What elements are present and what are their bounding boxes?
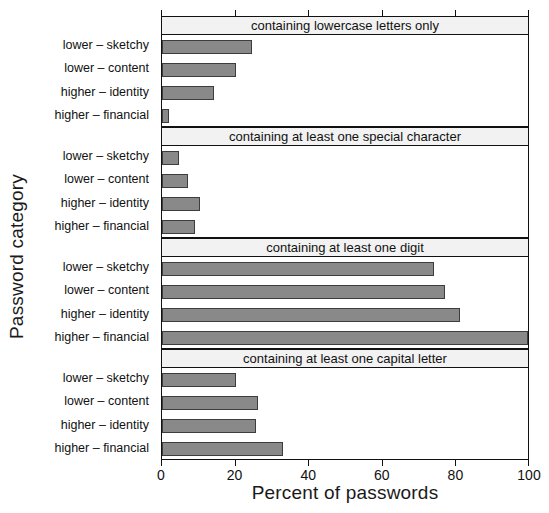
bar-row	[162, 216, 528, 238]
category-tick-label: higher – identity	[61, 192, 149, 215]
x-axis-tick-mark	[382, 460, 383, 466]
bar-row	[162, 257, 528, 280]
x-axis-tick-mark	[528, 460, 529, 466]
category-tick-label: lower – sketchy	[63, 34, 149, 57]
bar-row	[162, 368, 528, 391]
category-tick-label: higher – identity	[61, 303, 149, 326]
category-tick-label: lower – sketchy	[63, 256, 149, 279]
bar-row	[162, 193, 528, 216]
bar-row	[162, 327, 528, 349]
category-tick-label: higher – financial	[54, 215, 149, 238]
x-axis-tick-label: 100	[517, 467, 540, 483]
x-axis-tick-label: 80	[448, 467, 464, 483]
chart-panel: containing at least one special characte…	[161, 127, 529, 238]
bar-row	[162, 105, 528, 127]
category-tick-label: lower – content	[64, 168, 149, 191]
panel-strip-label: containing at least one capital letter	[161, 349, 529, 367]
x-axis-tick-mark	[308, 460, 309, 466]
chart-panel: containing at least one capital letterlo…	[161, 349, 529, 460]
category-tick-label: higher – financial	[54, 326, 149, 349]
bar-row	[162, 82, 528, 105]
x-axis-title: Percent of passwords	[161, 482, 529, 504]
category-tick-label: higher – identity	[61, 81, 149, 104]
chart-figure: Password category containing lowercase l…	[0, 0, 549, 513]
bar-row	[162, 438, 528, 460]
category-tick-labels: lower – sketchylower – contenthigher – i…	[0, 256, 155, 349]
panel-strip-label: containing lowercase letters only	[161, 16, 529, 34]
bar[interactable]	[162, 151, 179, 165]
bar-row	[162, 169, 528, 192]
category-tick-labels: lower – sketchylower – contenthigher – i…	[0, 145, 155, 238]
x-axis-tick-label: 60	[374, 467, 390, 483]
category-tick-labels: lower – sketchylower – contenthigher – i…	[0, 367, 155, 460]
bar[interactable]	[162, 308, 460, 322]
bar[interactable]	[162, 63, 236, 77]
bar[interactable]	[162, 109, 169, 123]
category-tick-labels: lower – sketchylower – contenthigher – i…	[0, 34, 155, 127]
panel-plot-area	[161, 367, 529, 460]
bar[interactable]	[162, 396, 258, 410]
bar-row	[162, 146, 528, 169]
bar[interactable]	[162, 174, 188, 188]
bar-row	[162, 280, 528, 303]
bar[interactable]	[162, 285, 445, 299]
chart-panel: containing lowercase letters onlylower –…	[161, 16, 529, 127]
bar-row	[162, 58, 528, 81]
category-tick-label: lower – sketchy	[63, 367, 149, 390]
bar-row	[162, 415, 528, 438]
bar[interactable]	[162, 331, 528, 345]
bar[interactable]	[162, 419, 256, 433]
x-axis-tick-label: 40	[300, 467, 316, 483]
panel-strip-label: containing at least one digit	[161, 238, 529, 256]
x-axis-tick-mark	[455, 460, 456, 466]
category-tick-label: higher – financial	[54, 437, 149, 460]
panel-stack: containing lowercase letters onlylower –…	[161, 16, 529, 460]
bar-row	[162, 304, 528, 327]
x-axis-tick-mark	[161, 460, 162, 466]
x-axis: 020406080100	[161, 460, 529, 482]
panel-plot-area	[161, 34, 529, 127]
panel-plot-area	[161, 145, 529, 238]
category-tick-label: lower – content	[64, 390, 149, 413]
panel-strip-label: containing at least one special characte…	[161, 127, 529, 145]
bar[interactable]	[162, 197, 200, 211]
bar[interactable]	[162, 442, 283, 456]
bar[interactable]	[162, 86, 214, 100]
category-tick-label: lower – sketchy	[63, 145, 149, 168]
bar[interactable]	[162, 262, 434, 276]
bar-row	[162, 35, 528, 58]
category-tick-label: higher – financial	[54, 104, 149, 127]
category-tick-label: higher – identity	[61, 414, 149, 437]
category-tick-label: lower – content	[64, 57, 149, 80]
chart-panel: containing at least one digitlower – ske…	[161, 238, 529, 349]
bar[interactable]	[162, 40, 252, 54]
x-axis-tick-label: 0	[157, 467, 165, 483]
bar[interactable]	[162, 220, 195, 234]
panel-plot-area	[161, 256, 529, 349]
x-axis-tick-label: 20	[227, 467, 243, 483]
x-axis-tick-mark	[235, 460, 236, 466]
bar[interactable]	[162, 373, 236, 387]
bar-row	[162, 391, 528, 414]
category-tick-label: lower – content	[64, 279, 149, 302]
